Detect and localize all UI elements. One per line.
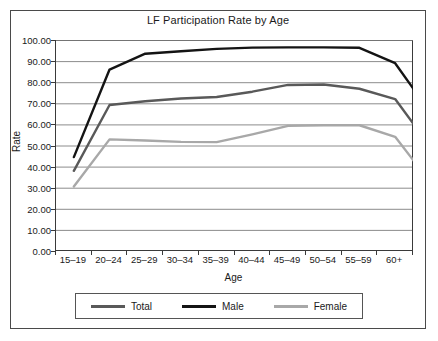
x-axis-tick-label: 50–54 (310, 254, 336, 265)
chart-legend: TotalMaleFemale (75, 293, 363, 319)
x-axis-tick-label: 35–39 (202, 254, 228, 265)
chart-container: LF Participation Rate by Age Rate 0.0010… (0, 0, 438, 341)
chart-title: LF Participation Rate by Age (10, 14, 426, 26)
legend-item-label: Female (314, 301, 347, 312)
x-axis-tick-label: 60+ (386, 254, 402, 265)
x-axis-tick-label: 25–29 (131, 254, 157, 265)
x-axis-tick-label: 40–44 (238, 254, 264, 265)
series-line-total (74, 85, 413, 171)
x-axis-tick-label: 45–49 (274, 254, 300, 265)
x-axis-tick-label: 30–34 (167, 254, 193, 265)
x-axis-tick-label: 15–19 (60, 254, 86, 265)
legend-swatch-icon (274, 305, 308, 308)
x-axis-tick-label: 55–59 (345, 254, 371, 265)
series-line-female (74, 125, 413, 186)
plot-lines (56, 40, 413, 251)
legend-item-female[interactable]: Female (274, 301, 347, 312)
x-axis-tick-labels: 15–1920–2425–2930–3435–3940–4445–4950–54… (55, 254, 412, 270)
plot-area (55, 40, 412, 251)
legend-item-total[interactable]: Total (91, 301, 152, 312)
y-axis-tick-marks (0, 40, 55, 251)
legend-item-label: Male (222, 301, 244, 312)
x-axis-tick-mark (412, 251, 413, 255)
x-axis-title: Age (55, 272, 412, 283)
legend-item-label: Total (131, 301, 152, 312)
legend-item-male[interactable]: Male (182, 301, 244, 312)
legend-swatch-icon (91, 305, 125, 308)
x-axis-tick-label: 20–24 (95, 254, 121, 265)
legend-swatch-icon (182, 305, 216, 308)
